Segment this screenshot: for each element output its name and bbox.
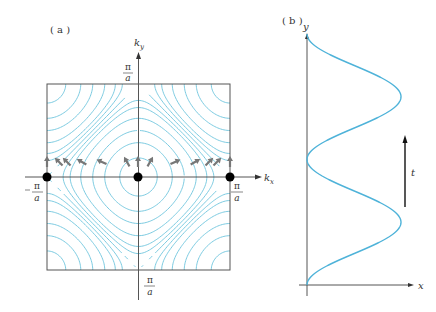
ky-label: ky — [134, 37, 145, 51]
t-label: t — [411, 167, 416, 178]
ky-arrowhead-icon — [136, 52, 141, 59]
svg-text:π: π — [147, 275, 153, 285]
figure: ( a ) ky kx π a π a π a — [0, 0, 436, 312]
svg-text:a: a — [147, 287, 152, 297]
tick-left-minus-pi-over-a: π a — [25, 181, 43, 203]
panel-b: ( b ) y x t — [282, 15, 424, 296]
svg-text:π: π — [34, 181, 40, 191]
lattice-point-dot — [43, 173, 52, 182]
svg-text:a: a — [34, 193, 39, 203]
x-arrowhead-icon — [408, 283, 414, 287]
velocity-arrow-icon — [227, 156, 233, 167]
tick-top-pi-over-a: π a — [123, 62, 133, 83]
wave-packet-trajectory — [307, 34, 401, 285]
velocity-arrow-icon — [53, 156, 65, 168]
kx-arrowhead-icon — [255, 175, 262, 180]
panel-a-label: ( a ) — [50, 24, 70, 35]
velocity-arrow-icon — [169, 157, 182, 167]
panel-b-label: ( b ) — [282, 15, 303, 26]
tick-bottom-pi-over-a: π a — [144, 275, 155, 297]
time-arrowhead-icon — [403, 135, 408, 143]
velocity-arrow-icon — [121, 155, 132, 168]
velocity-arrow-icon — [145, 155, 156, 168]
x-label: x — [418, 280, 424, 291]
kx-label: kx — [264, 172, 274, 186]
velocity-arrow-icon — [44, 156, 50, 167]
y-label: y — [302, 21, 309, 32]
svg-text:a: a — [125, 73, 130, 83]
velocity-arrow-icon — [211, 156, 223, 168]
svg-text:π: π — [125, 62, 131, 72]
svg-text:a: a — [234, 193, 239, 203]
svg-text:π: π — [234, 181, 240, 191]
tick-right-pi-over-a: π a — [231, 181, 243, 203]
lattice-point-dot — [134, 173, 143, 182]
velocity-arrow-icon — [203, 156, 215, 168]
panel-a: ( a ) ky kx π a π a π a — [25, 24, 274, 300]
velocity-arrow-icon — [95, 157, 108, 167]
